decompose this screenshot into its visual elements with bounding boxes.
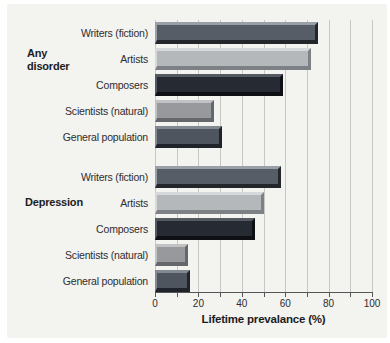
x-axis-title: Lifetime prevalance (%) — [155, 313, 372, 325]
bar-label: Writers (fiction) — [10, 22, 148, 44]
bar-scientists-natural — [155, 100, 214, 122]
bar-label: Composers — [10, 74, 148, 96]
bar-writers-fiction — [155, 22, 318, 44]
tick-label: 40 — [227, 298, 257, 309]
bar-general-population — [155, 270, 190, 292]
bar-writers-fiction — [155, 166, 281, 188]
bar-label: Writers (fiction) — [10, 166, 148, 188]
bar-label: Artists — [10, 192, 148, 214]
bar-label: General population — [10, 126, 148, 148]
axis-tick — [220, 292, 221, 297]
axis-tick — [155, 292, 156, 297]
bar-label: Scientists (natural) — [10, 244, 148, 266]
tick-label: 20 — [183, 298, 213, 309]
axis-tick — [177, 292, 178, 297]
axis-tick — [307, 292, 308, 297]
bar-general-population — [155, 126, 222, 148]
tick-label: 60 — [270, 298, 300, 309]
axis-tick — [198, 292, 199, 297]
bar-label: Artists — [10, 48, 148, 70]
bar-label: General population — [10, 270, 148, 292]
tick-label: 80 — [314, 298, 344, 309]
bar-composers — [155, 218, 255, 240]
axis-tick — [264, 292, 265, 297]
bar-composers — [155, 74, 283, 96]
axis-tick — [350, 292, 351, 297]
tick-label: 0 — [140, 298, 170, 309]
gridline — [350, 20, 351, 292]
bar-label: Composers — [10, 218, 148, 240]
bar-label: Scientists (natural) — [10, 100, 148, 122]
axis-tick — [242, 292, 243, 297]
axis-tick — [285, 292, 286, 297]
bar-scientists-natural — [155, 244, 188, 266]
bar-artists — [155, 192, 264, 214]
plot-area — [155, 20, 372, 292]
chart-figure: Any disorder Depression Lifetime prevala… — [0, 0, 390, 343]
gridline — [329, 20, 330, 292]
tick-label: 100 — [357, 298, 387, 309]
bar-artists — [155, 48, 311, 70]
axis-tick — [329, 292, 330, 297]
gridline — [372, 20, 373, 292]
axis-tick — [372, 292, 373, 297]
